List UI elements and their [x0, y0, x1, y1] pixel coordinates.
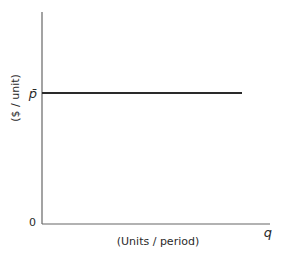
- y-tick-label-pbar: p̄: [28, 86, 37, 101]
- y-axis-label: ($ / unit): [9, 74, 22, 122]
- x-axis-label: (Units / period): [117, 235, 199, 248]
- chart: p̄ 0 q (Units / period) ($ / unit): [0, 0, 283, 256]
- origin-label: 0: [29, 216, 36, 229]
- x-axis-symbol: q: [264, 225, 272, 240]
